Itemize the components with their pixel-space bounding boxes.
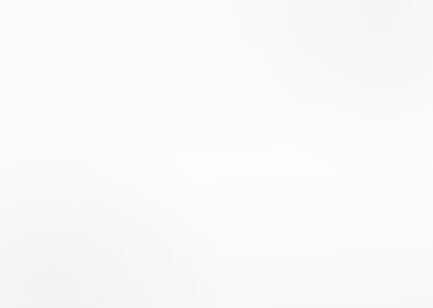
chart-container: 020,00040,00060,00080,000100,000120,0001…	[0, 0, 433, 308]
y-axis-tick-label-0: 0	[51, 186, 56, 197]
y-axis-tick-label-140000: 140,000	[22, 53, 56, 64]
y-axis-title: Population	[7, 79, 18, 126]
y-axis-tick-label-160000: 160,000	[22, 34, 56, 45]
legend-label-libya: Libya	[184, 270, 207, 281]
data-point-egypt-1848	[149, 137, 154, 142]
x-axis-tick-label-1848: 1848	[136, 195, 159, 218]
y-axis-tick-label-40000: 40,000	[27, 148, 56, 159]
x-axis-tick-label-1843: 1843	[104, 195, 127, 218]
y-axis-tick-label-120000: 120,000	[22, 72, 56, 83]
x-axis-tick-label-1891: 1891	[394, 195, 417, 218]
y-axis-tick-label-20000: 20,000	[27, 167, 56, 178]
data-point-egypt-1868	[274, 26, 279, 31]
data-point-libya-1835	[73, 187, 77, 191]
plot-area-background	[63, 14, 424, 192]
x-axis-tick-label-1868: 1868	[257, 195, 280, 218]
population-line-chart: 020,00040,00060,00080,000100,000120,0001…	[0, 0, 433, 308]
y-axis-tick-label-60000: 60,000	[27, 129, 56, 140]
legend-swatch-marker-egypt	[155, 287, 160, 292]
legend-label-algeria: Algeria	[268, 270, 298, 281]
y-axis-tick-label-80000: 80,000	[27, 110, 56, 121]
y-axis-tick-label-180000: 180,000	[22, 15, 56, 26]
x-axis-tick-label-1882: 1882	[351, 195, 374, 218]
y-axis-tick-label-100000: 100,000	[22, 91, 56, 102]
legend-swatch-marker-libya	[156, 273, 160, 277]
legend-label-egypt: Egypt	[184, 285, 209, 296]
data-point-libya-1891	[408, 187, 412, 191]
data-point-libya-1839-1840	[96, 186, 100, 190]
x-axis-title: Year	[234, 239, 255, 250]
data-point-libya-1843	[118, 189, 122, 193]
